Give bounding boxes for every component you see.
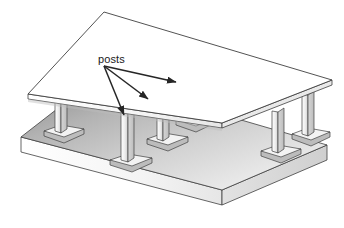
post-right-back <box>292 91 330 146</box>
post-shaft-left <box>302 94 308 136</box>
diagram-canvas: posts <box>0 0 344 228</box>
isometric-illustration: posts <box>0 0 344 228</box>
post-shaft-right <box>308 91 314 136</box>
post-shaft-right <box>278 108 284 153</box>
posts-label: posts <box>98 53 125 65</box>
post-shaft-left <box>272 111 278 153</box>
